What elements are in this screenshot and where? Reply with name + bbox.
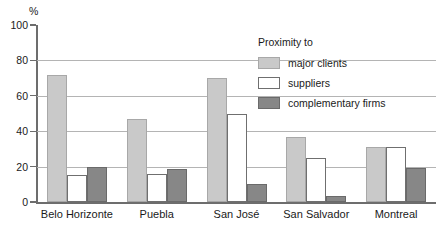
x-axis-category-label: Montreal	[375, 208, 418, 221]
bar-san-salvador-major-clients	[286, 137, 306, 202]
y-axis-tick	[30, 95, 36, 96]
y-axis-tick-label: 0	[1, 197, 28, 208]
y-axis-unit-label: %	[29, 6, 38, 17]
legend-label: complementary firms	[288, 97, 385, 109]
legend-swatch-icon	[258, 57, 280, 69]
bar-san-salvador-suppliers	[306, 158, 326, 202]
legend-item-major-clients: major clients	[258, 54, 438, 72]
legend-label: major clients	[288, 57, 347, 69]
y-axis-tick-label: 20	[1, 161, 28, 172]
bar-montreal-suppliers	[386, 147, 406, 202]
y-axis-tick	[30, 24, 36, 25]
bar-san-josé-major-clients	[207, 78, 227, 202]
bar-san-josé-suppliers	[227, 114, 247, 203]
bar-belo-horizonte-major-clients	[47, 75, 67, 202]
y-axis-tick	[30, 131, 36, 132]
legend-swatch-icon	[258, 97, 280, 109]
bar-montreal-major-clients	[366, 147, 386, 202]
x-axis-category-label: San José	[214, 208, 260, 221]
x-axis-category-label: San Salvador	[283, 208, 349, 221]
bar-puebla-major-clients	[127, 119, 147, 202]
y-axis-tick-label: 80	[1, 55, 28, 66]
bar-san-josé-complementary-firms	[247, 184, 267, 202]
legend-item-complementary-firms: complementary firms	[258, 94, 438, 112]
bar-chart: % 020406080100 Belo HorizontePueblaSan J…	[0, 0, 442, 235]
x-axis-category-label: Puebla	[140, 208, 174, 221]
bar-belo-horizonte-complementary-firms	[87, 167, 107, 202]
y-axis-tick	[30, 60, 36, 61]
y-axis-tick-label: 100	[1, 20, 28, 31]
chart-legend: Proximity to major clientssupplierscompl…	[258, 36, 438, 114]
legend-item-suppliers: suppliers	[258, 74, 438, 92]
bar-belo-horizonte-suppliers	[67, 175, 87, 202]
y-axis-line	[36, 25, 38, 203]
y-axis-tick-label: 60	[1, 90, 28, 101]
y-axis-tick	[30, 166, 36, 167]
y-axis-tick-label: 40	[1, 126, 28, 137]
legend-swatch-icon	[258, 77, 280, 89]
bar-montreal-complementary-firms	[406, 168, 426, 202]
bar-puebla-suppliers	[147, 174, 167, 202]
x-axis-category-label: Belo Horizonte	[41, 208, 113, 221]
x-axis-line	[36, 202, 436, 204]
legend-label: suppliers	[288, 77, 330, 89]
bar-puebla-complementary-firms	[167, 169, 187, 202]
legend-title: Proximity to	[258, 36, 438, 48]
